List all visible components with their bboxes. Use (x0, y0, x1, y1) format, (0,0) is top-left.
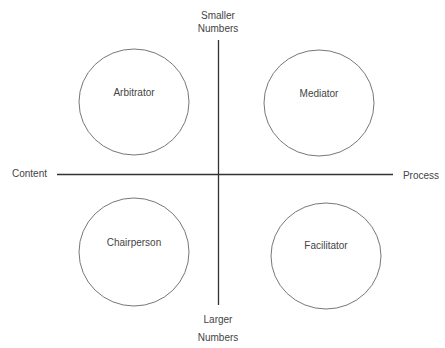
axis-label-right: Process (403, 170, 439, 181)
quadrant-label-mediator: Mediator (300, 88, 340, 99)
quadrant-label-facilitator: Facilitator (304, 240, 348, 251)
circle-facilitator (271, 203, 381, 309)
quadrant-label-arbitrator: Arbitrator (113, 87, 155, 98)
axis-label-bottom-1: Larger (204, 314, 234, 325)
circle-mediator (264, 50, 374, 156)
quadrant-diagram: Smaller Numbers Larger Numbers Content P… (0, 0, 445, 348)
circle-arbitrator (79, 49, 189, 155)
axis-label-left: Content (12, 168, 47, 179)
circle-chairperson (79, 198, 189, 306)
axis-label-bottom-2: Numbers (198, 332, 239, 343)
axis-label-top-1: Smaller (201, 10, 236, 21)
axis-label-top-2: Numbers (198, 23, 239, 34)
quadrant-label-chairperson: Chairperson (107, 237, 161, 248)
